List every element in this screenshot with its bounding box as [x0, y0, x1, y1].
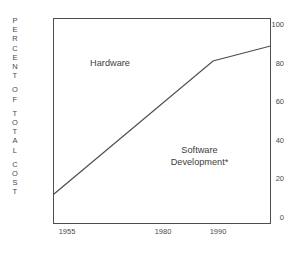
- y-axis-title-char: L: [8, 146, 22, 155]
- x-tick-label-1980: 1980: [143, 228, 183, 236]
- plot-frame: [53, 18, 271, 224]
- y-axis-title-char: T: [8, 71, 22, 80]
- y-axis-title: PERCENTOFTOTALCOST: [8, 16, 22, 197]
- software-label-line1: Software: [181, 145, 217, 155]
- y-axis-title-char: O: [8, 85, 22, 94]
- y-axis-title-char: O: [8, 169, 22, 178]
- y-axis-title-char: N: [8, 62, 22, 71]
- y-axis-title-char: R: [8, 34, 22, 43]
- hardware-region-label: Hardware: [70, 58, 150, 70]
- y-axis-title-char: C: [8, 160, 22, 169]
- y-axis-title-char: P: [8, 16, 22, 25]
- software-label-line2: Development*: [171, 157, 229, 167]
- y-axis-title-char: O: [8, 118, 22, 127]
- x-tick-label-1990: 1990: [198, 228, 238, 236]
- y-axis-title-char: S: [8, 178, 22, 187]
- y-axis-title-char: C: [8, 44, 22, 53]
- y-axis-title-char: T: [8, 187, 22, 196]
- y-axis-title-char: T: [8, 109, 22, 118]
- y-axis-title-char: E: [8, 25, 22, 34]
- y-axis-title-char: A: [8, 136, 22, 145]
- cost-trend-chart: PERCENTOFTOTALCOST 100 80 60 40 20 0 Har…: [0, 0, 289, 258]
- y-axis-title-char: F: [8, 95, 22, 104]
- y-axis-title-char: T: [8, 127, 22, 136]
- software-development-region-label: SoftwareDevelopment*: [152, 145, 247, 168]
- x-tick-label-1955: 1955: [47, 228, 87, 236]
- y-axis-title-char: E: [8, 53, 22, 62]
